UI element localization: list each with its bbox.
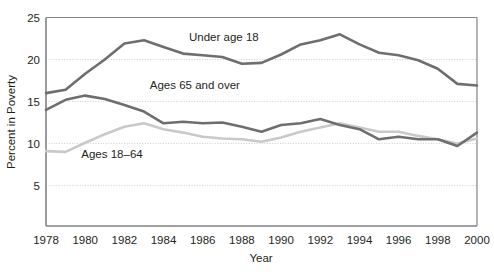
series-annotation: Ages 18–64	[81, 148, 143, 160]
x-tick-labels: 1978198019821984198619881990199219941996…	[33, 234, 490, 246]
x-tick-label: 1992	[308, 234, 334, 246]
y-axis-title: Percent in Poverty	[5, 75, 17, 169]
x-tick-label: 1982	[112, 234, 138, 246]
series-line-ages-65-and-over	[46, 96, 477, 146]
y-tick-labels: 25 20 15 10 5	[27, 12, 40, 192]
series-annotation: Under age 18	[189, 31, 259, 43]
x-tick-label: 1988	[229, 234, 255, 246]
y-tick-label-10: 10	[27, 138, 40, 150]
series-annotation: Ages 65 and over	[150, 79, 240, 91]
y-tick-label-5: 5	[34, 180, 40, 192]
x-tick-label: 1996	[386, 234, 412, 246]
plot-frame	[46, 18, 477, 227]
x-tick-label: 1980	[72, 234, 98, 246]
y-tick-label-25: 25	[27, 12, 40, 24]
x-tick-label: 1994	[347, 234, 373, 246]
x-tick-label: 1986	[190, 234, 216, 246]
x-tick-label: 1990	[268, 234, 294, 246]
x-axis-title: Year	[249, 252, 272, 264]
x-tick-label: 2000	[464, 234, 490, 246]
data-series	[46, 34, 477, 152]
chart-canvas: 25 20 15 10 5 19781980198219841986198819…	[0, 0, 494, 272]
x-tick-label: 1984	[151, 234, 177, 246]
x-tick-label: 1978	[33, 234, 59, 246]
gridlines	[46, 60, 477, 186]
y-tick-label-20: 20	[27, 54, 40, 66]
series-line-under-age-18	[46, 34, 477, 93]
y-tick-label-15: 15	[27, 96, 40, 108]
poverty-rate-line-chart: 25 20 15 10 5 19781980198219841986198819…	[0, 0, 494, 272]
x-tick-label: 1998	[425, 234, 451, 246]
